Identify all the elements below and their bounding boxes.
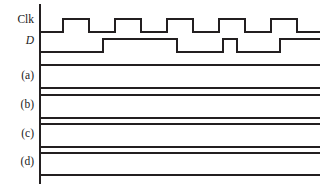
row-label-a: (a) [0,70,34,82]
row-label-clk: Clk [0,14,34,26]
row-label-c: (c) [0,128,34,140]
row-label-d: D [0,35,34,47]
row-label-d-row: (d) [0,156,34,168]
waveform-d [40,39,320,52]
timing-diagram-figure: Clk D (a) (b) (c) (d) [0,0,334,188]
timing-diagram-canvas [0,0,334,188]
row-label-b: (b) [0,99,34,111]
blank-waveform-rails [40,65,320,175]
signal-waveforms [40,19,320,52]
waveform-clk [40,19,320,32]
